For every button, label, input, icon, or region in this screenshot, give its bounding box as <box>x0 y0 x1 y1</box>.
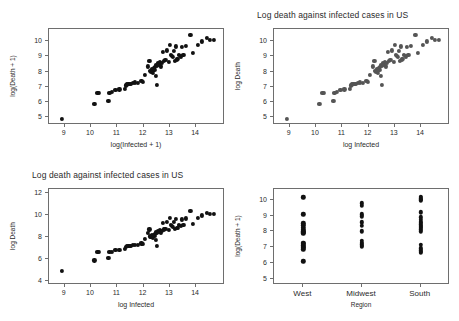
panel-bottom-right-ytickmark <box>270 230 273 231</box>
panel-bottom-right-category-label: South <box>409 289 430 298</box>
panel-bottom-right-category-label: West <box>293 289 311 298</box>
data-point <box>301 195 305 199</box>
panel-bottom-right-xtickmark <box>302 284 303 287</box>
data-point <box>301 212 305 216</box>
data-point <box>301 231 305 235</box>
panel-bottom-right-ytickmark <box>270 199 273 200</box>
data-point <box>360 244 364 248</box>
data-point <box>418 210 422 214</box>
panel-bottom-right-ytick-label: 8 <box>245 227 267 234</box>
panel-bottom-right-plot-area <box>274 189 448 283</box>
panel-bottom-right-plot-frame <box>273 188 449 284</box>
data-point <box>418 198 422 202</box>
panel-bottom-right-ytick-label: 6 <box>245 258 267 265</box>
panel-bottom-right-xlabel: Region <box>273 301 449 308</box>
panel-bottom-right-ytickmark <box>270 215 273 216</box>
data-point <box>360 204 364 208</box>
panel-bottom-right: 5678910log(Death + 1)WestMidwestSouthReg… <box>0 0 459 321</box>
data-point <box>360 214 364 218</box>
panel-bottom-right-ytickmark <box>270 262 273 263</box>
panel-bottom-right-ytick-label: 7 <box>245 243 267 250</box>
panel-bottom-right-ytick-label: 9 <box>245 211 267 218</box>
panel-bottom-right-ylabel: log(Death + 1) <box>234 215 241 256</box>
panel-bottom-right-xtickmark <box>420 284 421 287</box>
panel-bottom-right-xtickmark <box>361 284 362 287</box>
panel-bottom-right-ytickmark <box>270 278 273 279</box>
panel-bottom-right-ytick-label: 5 <box>245 274 267 281</box>
data-point <box>301 247 305 251</box>
panel-bottom-right-ytickmark <box>270 246 273 247</box>
data-point <box>418 250 422 254</box>
data-point <box>418 229 422 233</box>
figure-canvas: 5678910log(Death + 1)91011121314log(Infe… <box>0 0 459 321</box>
data-point <box>360 223 364 227</box>
panel-bottom-right-category-label: Midwest <box>346 289 375 298</box>
data-point <box>301 259 305 263</box>
data-point <box>360 229 364 233</box>
panel-bottom-right-ytick-label: 10 <box>245 196 267 203</box>
